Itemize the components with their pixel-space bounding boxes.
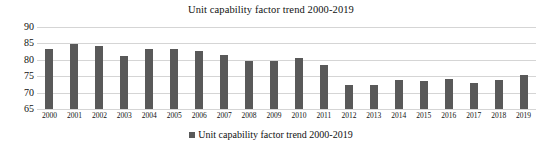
y-axis: 657075808590: [13, 27, 34, 109]
legend-swatch-icon: [189, 132, 195, 138]
bar: [370, 85, 378, 109]
plot-wrapper: 657075808590: [13, 27, 536, 109]
bar: [445, 79, 453, 109]
y-axis-tick-label: 70: [13, 88, 34, 98]
bar: [220, 55, 228, 109]
x-axis-tick-label: 2001: [62, 110, 87, 124]
x-axis-tick-label: 2017: [461, 110, 486, 124]
legend-label: Unit capability factor trend 2000-2019: [198, 129, 352, 141]
y-axis-tick-label: 65: [13, 104, 34, 114]
bar: [470, 83, 478, 109]
x-axis-tick-label: 2003: [112, 110, 137, 124]
bar-slot: [37, 27, 62, 109]
bar-slot: [411, 27, 436, 109]
bar: [270, 61, 278, 109]
bar: [420, 81, 428, 109]
bar-slot: [486, 27, 511, 109]
x-axis-tick-label: 2005: [162, 110, 187, 124]
chart-container: Unit capability factor trend 2000-2019 6…: [0, 0, 542, 151]
bar: [495, 80, 503, 109]
x-axis-tick-label: 2007: [212, 110, 237, 124]
bar-slot: [461, 27, 486, 109]
bar: [245, 61, 253, 109]
bar-slot: [87, 27, 112, 109]
y-axis-tick-label: 75: [13, 71, 34, 81]
bar-slot: [212, 27, 237, 109]
chart-title: Unit capability factor trend 2000-2019: [0, 3, 542, 16]
x-axis-tick-label: 2009: [262, 110, 287, 124]
bar: [320, 65, 328, 109]
bar-slot: [287, 27, 312, 109]
bar-slot: [511, 27, 536, 109]
x-axis-tick-label: 2008: [237, 110, 262, 124]
bar: [295, 58, 303, 109]
bar: [170, 49, 178, 109]
bar-slot: [137, 27, 162, 109]
bar-slot: [237, 27, 262, 109]
bar-slot: [187, 27, 212, 109]
chart-legend: Unit capability factor trend 2000-2019: [0, 129, 542, 141]
x-axis-tick-label: 2014: [386, 110, 411, 124]
x-axis-tick-label: 2018: [486, 110, 511, 124]
bar-slot: [361, 27, 386, 109]
x-axis-tick-label: 2010: [287, 110, 312, 124]
x-axis-tick-label: 2019: [511, 110, 536, 124]
y-axis-tick-label: 85: [13, 38, 34, 48]
bar: [120, 56, 128, 109]
x-axis-tick-label: 2015: [411, 110, 436, 124]
bar: [95, 46, 103, 109]
x-axis-tick-label: 2004: [137, 110, 162, 124]
bar-slot: [386, 27, 411, 109]
bar: [520, 75, 528, 109]
bar-slot: [62, 27, 87, 109]
x-axis-tick-label: 2000: [37, 110, 62, 124]
x-axis-tick-label: 2002: [87, 110, 112, 124]
bar: [145, 49, 153, 109]
x-axis-tick-label: 2011: [311, 110, 336, 124]
bar-slot: [336, 27, 361, 109]
plot-area: [37, 27, 536, 109]
x-axis: 2000200120022003200420052006200720082009…: [37, 110, 536, 124]
bar-slot: [311, 27, 336, 109]
bar-slot: [262, 27, 287, 109]
y-axis-tick-label: 80: [13, 55, 34, 65]
x-axis-tick-label: 2016: [436, 110, 461, 124]
bar: [395, 80, 403, 109]
x-axis-tick-label: 2006: [187, 110, 212, 124]
bar-slot: [112, 27, 137, 109]
bar: [195, 51, 203, 109]
x-axis-tick-label: 2012: [336, 110, 361, 124]
bar: [70, 44, 78, 109]
bar-slot: [162, 27, 187, 109]
x-axis-tick-label: 2013: [361, 110, 386, 124]
bar: [45, 49, 53, 109]
bar-series: [37, 27, 536, 109]
bar-slot: [436, 27, 461, 109]
y-axis-tick-label: 90: [13, 22, 34, 32]
bar: [345, 85, 353, 109]
